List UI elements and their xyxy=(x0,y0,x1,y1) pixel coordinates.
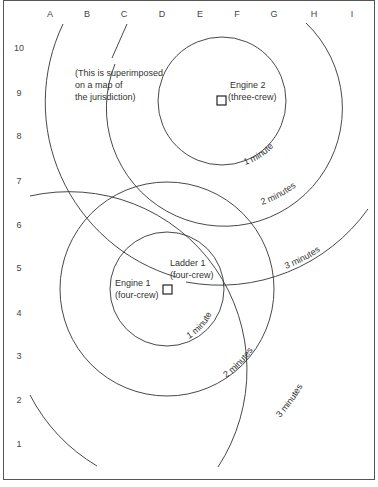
row-label: 9 xyxy=(16,88,21,98)
response-time-map: A B C D E F G H I 10 9 8 7 6 5 4 3 2 1 xyxy=(0,0,378,487)
engine2-ring-1-label: 1 minute xyxy=(242,141,275,167)
row-label: 4 xyxy=(16,308,21,318)
engine2-label: Engine 2 xyxy=(230,80,266,90)
engine1-ring-3-minutes-lower-left xyxy=(30,395,97,466)
column-label: C xyxy=(121,9,128,19)
engine2-ring-3-minutes-left xyxy=(45,24,176,277)
engine2-ring-2-minutes xyxy=(106,23,342,226)
ladder1-label: Ladder 1 xyxy=(170,258,206,268)
row-label: 2 xyxy=(16,395,21,405)
map-note-line-1: (This is superimposed xyxy=(75,68,163,78)
column-label: I xyxy=(351,9,354,19)
engine1-label: Engine 1 xyxy=(115,278,151,288)
row-labels: 10 9 8 7 6 5 4 3 2 1 xyxy=(14,43,24,449)
column-label: F xyxy=(234,9,240,19)
row-label: 7 xyxy=(16,176,21,186)
map-note-line-2: on a map of xyxy=(75,80,123,90)
engine2-marker xyxy=(217,96,226,105)
map-frame xyxy=(4,1,375,480)
column-label: E xyxy=(197,9,203,19)
column-labels: A B C D E F G H I xyxy=(47,9,353,19)
row-label: 3 xyxy=(16,351,21,361)
engine1-ring-2-label: 2 minutes xyxy=(221,345,255,380)
engine1-marker xyxy=(163,285,172,294)
row-label: 10 xyxy=(14,43,24,53)
map-note-line-3: the jurisdiction) xyxy=(75,92,136,102)
row-label: 5 xyxy=(16,263,21,273)
engine2-ring-2-minutes-upper xyxy=(112,24,127,58)
row-label: 1 xyxy=(16,439,21,449)
engine1-ring-3-label: 3 minutes xyxy=(274,382,305,420)
column-label: H xyxy=(311,9,318,19)
engine1-crew: (four-crew) xyxy=(115,290,159,300)
column-label: B xyxy=(84,9,90,19)
engine2-crew: (three-crew) xyxy=(228,92,277,102)
engine1-ring-3-minutes xyxy=(30,192,247,467)
engine2-ring-2-label: 2 minutes xyxy=(259,180,298,207)
row-label: 8 xyxy=(16,131,21,141)
column-label: D xyxy=(159,9,166,19)
row-label: 6 xyxy=(16,220,21,230)
column-label: G xyxy=(270,9,277,19)
ladder1-crew: (four-crew) xyxy=(170,270,214,280)
column-label: A xyxy=(47,9,53,19)
